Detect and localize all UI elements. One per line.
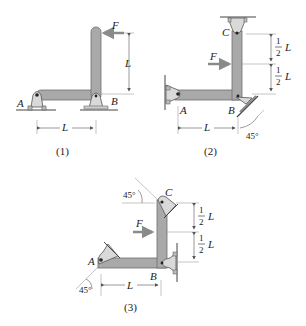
lower-dim-denominator: 2 xyxy=(276,77,281,87)
figure-1: F L A B L (1) xyxy=(16,19,134,158)
vertical-dimensions xyxy=(242,34,276,94)
horizontal-dim-label: L xyxy=(61,121,68,133)
force-label-f: F xyxy=(135,217,143,229)
figure-caption-3: (3) xyxy=(124,301,137,314)
figure-caption-1: (1) xyxy=(56,145,69,158)
rocker-support-b xyxy=(236,95,258,117)
l-shaped-member xyxy=(36,27,101,100)
angle-indicator xyxy=(240,110,264,128)
angle-label-top: 45° xyxy=(123,190,136,200)
point-label-b: B xyxy=(111,95,118,107)
lower-dim-variable: L xyxy=(207,238,214,250)
upper-dim-variable: L xyxy=(207,210,214,222)
angle-label: 45° xyxy=(246,131,259,141)
diagram-canvas: F L A B L (1) xyxy=(0,0,306,326)
vertical-dimensions xyxy=(167,203,199,262)
angle-label-bottom: 45° xyxy=(79,285,92,295)
horizontal-dim-label: L xyxy=(126,279,133,291)
point-label-b: B xyxy=(150,270,157,282)
force-label-f: F xyxy=(111,19,119,31)
point-label-a: A xyxy=(16,97,24,109)
figure-3: C 45° A B F xyxy=(76,178,214,314)
horizontal-dim-label: L xyxy=(203,121,210,133)
pin-support-a xyxy=(166,85,180,104)
figure-caption-2: (2) xyxy=(204,145,217,158)
upper-dim-denominator: 2 xyxy=(199,217,204,227)
point-label-a: A xyxy=(87,255,95,267)
point-label-a: A xyxy=(179,104,187,116)
upper-dim-denominator: 2 xyxy=(276,48,281,58)
pin-support-c xyxy=(228,18,247,35)
force-label-f: F xyxy=(209,50,217,62)
upper-dim-numerator: 1 xyxy=(199,205,204,215)
lower-dim-numerator: 1 xyxy=(276,65,281,75)
point-label-c: C xyxy=(222,26,230,38)
upper-dim-variable: L xyxy=(284,41,291,53)
point-label-c: C xyxy=(165,186,173,198)
vertical-dim-label: L xyxy=(124,57,131,69)
figure-2: C F 1 2 L 1 xyxy=(165,17,291,158)
l-shaped-member xyxy=(175,31,242,100)
lower-dim-numerator: 1 xyxy=(199,233,204,243)
lower-dim-denominator: 2 xyxy=(199,245,204,255)
point-label-b: B xyxy=(228,104,235,116)
lower-dim-variable: L xyxy=(284,70,291,82)
upper-dim-numerator: 1 xyxy=(276,36,281,46)
